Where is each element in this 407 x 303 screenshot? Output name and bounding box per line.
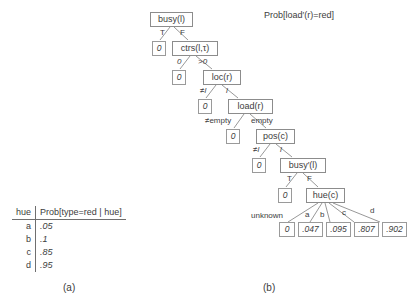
leaf-pos-ne[interactable]: 0 (252, 158, 266, 173)
edge-label-pos-eq: l (280, 145, 282, 154)
node-pos[interactable]: pos(c) (256, 129, 295, 144)
table-header-hue: hue (12, 206, 36, 220)
edge-label-hue-a: a (305, 210, 309, 219)
prob-table: hue Prob[type=red | hue] a .05 b .1 c .8… (12, 206, 126, 272)
edge-label-busy-true: T (160, 28, 165, 37)
edge-ctrs-zero (180, 56, 190, 69)
leaf-hue-unknown[interactable]: 0 (279, 222, 295, 237)
edge-label-hue-c: c (342, 208, 346, 217)
caption-b: (b) (263, 282, 275, 294)
edge-load-nonempty (234, 114, 244, 128)
table-cell-prob: .05 (36, 220, 126, 234)
node-hue[interactable]: hue(c) (306, 188, 345, 203)
leaf-hue-a[interactable]: .047 (298, 222, 323, 237)
edge-loc-ne (206, 85, 216, 98)
table-cell-prob: .1 (36, 233, 126, 246)
node-load[interactable]: load(r) (228, 99, 273, 114)
edge-label-hue-d: d (370, 206, 374, 215)
node-busy[interactable]: busy(l) (150, 12, 193, 27)
edge-label-busyp-true: T (287, 174, 292, 183)
table-header-row: hue Prob[type=red | hue] (12, 206, 126, 220)
table-row: a .05 (12, 220, 126, 234)
table-row: b .1 (12, 233, 126, 246)
panel-b-title: Prob[load′(r)=red] (264, 10, 334, 21)
table-row: c .85 (12, 246, 126, 259)
edge-label-ctrs-zero: 0 (177, 57, 181, 66)
edge-label-loc-ne: ≠l (200, 86, 206, 95)
table-row: d .95 (12, 259, 126, 272)
edge-label-load-empty: empty (251, 116, 273, 125)
node-ctrs[interactable]: ctrs(l,τ) (172, 41, 218, 56)
edge-loc-eq (222, 85, 238, 98)
table-header-prob: Prob[type=red | hue] (36, 206, 126, 220)
edge-label-busy-false: F (180, 28, 185, 37)
edge-label-load-nonempty: ≠empty (205, 116, 231, 125)
edge-label-pos-ne: ≠l (253, 145, 259, 154)
leaf-hue-c[interactable]: .807 (354, 222, 379, 237)
edge-hue-b (325, 203, 330, 222)
leaf-loc-ne[interactable]: 0 (198, 99, 212, 114)
leaf-busyp-true[interactable]: 0 (278, 188, 292, 203)
edge-label-hue-b: b (320, 210, 324, 219)
node-busy-prime[interactable]: busy′(l) (280, 158, 326, 173)
edge-pos-eq (276, 144, 292, 157)
node-loc[interactable]: loc(r) (203, 70, 241, 85)
leaf-ctrs-zero[interactable]: 0 (172, 70, 186, 85)
table-cell-prob: .85 (36, 246, 126, 259)
edge-label-ctrs-gtzero: >0 (198, 57, 207, 66)
leaf-hue-d[interactable]: .902 (382, 222, 407, 237)
edge-pos-ne (260, 144, 270, 157)
table-cell-hue: d (12, 259, 36, 272)
leaf-hue-b[interactable]: .095 (326, 222, 351, 237)
caption-a: (a) (63, 282, 75, 294)
table-cell-hue: b (12, 233, 36, 246)
table-cell-prob: .95 (36, 259, 126, 272)
leaf-busy-true[interactable]: 0 (152, 41, 166, 56)
leaf-load-nonempty[interactable]: 0 (226, 129, 240, 144)
table-cell-hue: c (12, 246, 36, 259)
table-cell-hue: a (12, 220, 36, 234)
edge-label-hue-unknown: unknown (251, 211, 283, 220)
edge-label-loc-eq: l (226, 86, 228, 95)
edge-hue-unknown (288, 203, 318, 222)
edge-label-busyp-false: F (307, 174, 312, 183)
